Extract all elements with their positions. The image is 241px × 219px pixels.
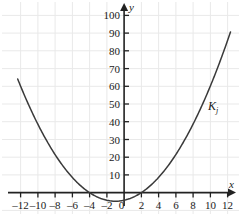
x-tick-label: –8: [50, 200, 61, 211]
y-tick-label: 90: [94, 28, 120, 39]
curve-label-kj: Kj: [208, 100, 218, 115]
x-tick-label: 6: [173, 200, 179, 211]
x-tick-label: 2: [139, 200, 145, 211]
x-axis-label: x: [229, 179, 234, 190]
x-tick-label: 0: [119, 200, 125, 211]
curve-label-subscript: j: [216, 106, 218, 115]
y-tick-label: 10: [94, 169, 120, 180]
y-tick-label: 100: [94, 10, 120, 21]
x-tick-label: –2: [101, 200, 112, 211]
y-tick-label: 30: [94, 134, 120, 145]
y-axis-label: y: [129, 2, 134, 13]
y-tick-label: 40: [94, 116, 120, 127]
y-tick-label: 80: [94, 45, 120, 56]
x-tick-label: 10: [205, 200, 216, 211]
x-tick-label: –10: [30, 200, 47, 211]
chart-figure: –12 –10 –8 –6 –4 –2 0 2 4 6 8 10 12 100 …: [0, 0, 241, 219]
x-tick-label: 12: [222, 200, 233, 211]
y-tick-label: 60: [94, 81, 120, 92]
x-tick-label: –4: [84, 200, 95, 211]
y-axis-arrow: [120, 3, 128, 11]
gridlines: [2, 2, 239, 214]
y-tick-label: 70: [94, 63, 120, 74]
parabola-plot: [0, 0, 241, 219]
x-tick-label: –6: [67, 200, 78, 211]
x-tick-label: 8: [190, 200, 196, 211]
y-tick-label: 50: [94, 99, 120, 110]
x-axis: [8, 189, 236, 197]
curve-label-main: K: [208, 99, 216, 113]
x-tick-label: –12: [12, 200, 29, 211]
y-tick-label: 20: [94, 152, 120, 163]
x-tick-label: 4: [156, 200, 162, 211]
